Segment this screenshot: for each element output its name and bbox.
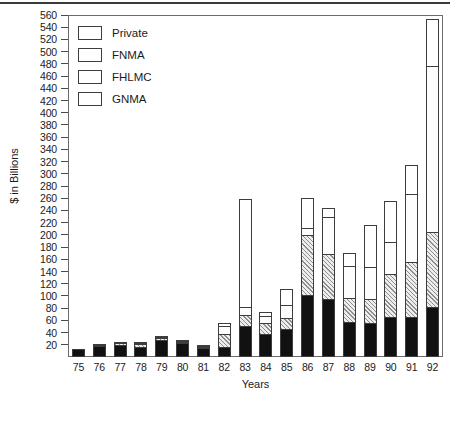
bar-segment[interactable] — [322, 254, 335, 300]
stacked-bar[interactable] — [426, 19, 439, 357]
stacked-bar[interactable] — [72, 349, 85, 357]
y-axis-tick: 560 — [0, 9, 68, 21]
x-axis-tick-label: 86 — [297, 358, 318, 378]
legend-item[interactable]: FNMA — [78, 48, 152, 62]
y-axis-tick-mark — [61, 88, 68, 89]
y-axis-tick-label: 280 — [40, 180, 57, 192]
stacked-bar[interactable] — [176, 340, 189, 357]
y-axis-tick-mark — [61, 161, 68, 162]
y-axis-tick-mark — [61, 210, 68, 211]
bar-segment[interactable] — [405, 262, 418, 318]
x-axis-tick-label: 77 — [110, 358, 131, 378]
y-axis-tick-mark — [61, 51, 68, 52]
y-axis-tick-label: 240 — [40, 204, 57, 216]
bar-group[interactable] — [360, 15, 381, 357]
y-axis-tick-mark — [61, 137, 68, 138]
stacked-bar[interactable] — [343, 253, 356, 357]
bar-segment[interactable] — [218, 334, 231, 349]
bar-segment[interactable] — [426, 19, 439, 68]
bar-segment[interactable] — [343, 253, 356, 267]
stacked-bar[interactable] — [155, 336, 168, 357]
legend-label: FNMA — [112, 49, 145, 61]
bar-group[interactable] — [318, 15, 339, 357]
stacked-bar[interactable] — [322, 208, 335, 357]
bar-segment[interactable] — [197, 348, 210, 357]
bar-group[interactable] — [255, 15, 276, 357]
legend-label: Private — [112, 27, 148, 39]
bar-segment[interactable] — [364, 323, 377, 357]
legend-item[interactable]: GNMA — [78, 92, 152, 106]
stacked-bar[interactable] — [280, 289, 293, 357]
stacked-bar[interactable] — [259, 312, 272, 357]
stacked-bar[interactable] — [301, 198, 314, 357]
bar-segment[interactable] — [301, 198, 314, 229]
bar-segment[interactable] — [134, 347, 147, 357]
bar-group[interactable] — [297, 15, 318, 357]
bar-group[interactable] — [214, 15, 235, 357]
stacked-bar[interactable] — [197, 345, 210, 357]
bar-segment[interactable] — [426, 307, 439, 357]
bar-group[interactable] — [276, 15, 297, 357]
y-axis-tick-mark — [61, 149, 68, 150]
bar-segment[interactable] — [343, 298, 356, 322]
bar-segment[interactable] — [176, 343, 189, 357]
bar-segment[interactable] — [384, 274, 397, 319]
stacked-bar[interactable] — [93, 344, 106, 357]
bar-segment[interactable] — [343, 322, 356, 357]
y-axis-tick-label: 480 — [40, 58, 57, 70]
bar-group[interactable] — [235, 15, 256, 357]
bar-segment[interactable] — [426, 66, 439, 232]
x-axis-tick-label: 84 — [255, 358, 276, 378]
stacked-bar[interactable] — [384, 201, 397, 357]
bar-segment[interactable] — [405, 165, 418, 196]
stacked-bar[interactable] — [114, 342, 127, 357]
stacked-bar[interactable] — [134, 342, 147, 357]
bar-group[interactable] — [339, 15, 360, 357]
bar-segment[interactable] — [364, 299, 377, 323]
bar-segment[interactable] — [155, 340, 168, 357]
y-axis-tick: 80 — [0, 302, 68, 314]
stacked-bar[interactable] — [364, 225, 377, 357]
bar-segment[interactable] — [343, 266, 356, 300]
bar-segment[interactable] — [405, 194, 418, 262]
stacked-bar[interactable] — [405, 165, 418, 357]
bar-segment[interactable] — [322, 299, 335, 357]
bar-segment[interactable] — [301, 295, 314, 357]
bar-group[interactable] — [401, 15, 422, 357]
bar-group[interactable] — [151, 15, 172, 357]
y-axis-tick: 120 — [0, 278, 68, 290]
y-axis-tick-mark — [61, 295, 68, 296]
bar-segment[interactable] — [280, 305, 293, 318]
bar-segment[interactable] — [426, 232, 439, 308]
bar-segment[interactable] — [301, 235, 314, 296]
stacked-bar[interactable] — [218, 323, 231, 357]
bar-group[interactable] — [422, 15, 443, 357]
y-axis-tick-mark — [61, 222, 68, 223]
bar-group[interactable] — [193, 15, 214, 357]
bar-segment[interactable] — [218, 347, 231, 357]
bar-segment[interactable] — [364, 267, 377, 301]
x-axis-tick-label: 82 — [214, 358, 235, 378]
bar-segment[interactable] — [405, 317, 418, 357]
bar-segment[interactable] — [384, 242, 397, 275]
bar-segment[interactable] — [280, 289, 293, 306]
stacked-bar[interactable] — [239, 199, 252, 357]
bar-segment[interactable] — [384, 201, 397, 243]
legend-item[interactable]: FHLMC — [78, 70, 152, 84]
bar-group[interactable] — [380, 15, 401, 357]
bar-segment[interactable] — [93, 346, 106, 357]
bar-segment[interactable] — [384, 317, 397, 357]
bar-segment[interactable] — [239, 199, 252, 308]
bar-segment[interactable] — [322, 217, 335, 255]
y-axis-tick-mark — [61, 76, 68, 77]
bar-segment[interactable] — [280, 329, 293, 357]
legend-item[interactable]: Private — [78, 26, 152, 40]
legend: PrivateFNMAFHLMCGNMA — [78, 26, 152, 106]
bar-segment[interactable] — [364, 225, 377, 268]
bar-segment[interactable] — [114, 345, 127, 357]
bar-segment[interactable] — [239, 326, 252, 357]
bar-group[interactable] — [172, 15, 193, 357]
y-axis-tick-mark — [61, 247, 68, 248]
bar-segment[interactable] — [72, 349, 85, 357]
bar-segment[interactable] — [259, 334, 272, 357]
